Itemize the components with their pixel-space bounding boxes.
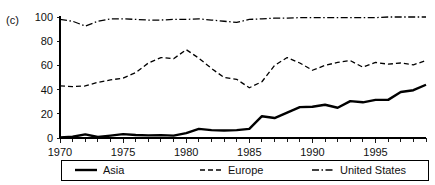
figure-panel-c: (c) 020406080100197019751980198519901995… <box>0 0 435 185</box>
legend-label-united-states: United States <box>340 164 407 176</box>
x-tick-label: 1990 <box>300 146 324 158</box>
y-tick-label: 80 <box>41 35 53 47</box>
x-tick-label: 1980 <box>174 146 198 158</box>
legend-label-asia: Asia <box>103 164 125 176</box>
x-tick-label: 1995 <box>363 146 387 158</box>
x-tick-label: 1985 <box>237 146 261 158</box>
y-tick-label: 20 <box>41 108 53 120</box>
legend-label-europe: Europe <box>228 164 263 176</box>
line-chart: 020406080100197019751980198519901995Asia… <box>0 0 435 185</box>
series-line-europe <box>60 50 426 88</box>
y-tick-label: 40 <box>41 84 53 96</box>
y-tick-label: 60 <box>41 59 53 71</box>
y-tick-label: 100 <box>35 11 53 23</box>
x-tick-label: 1970 <box>48 146 72 158</box>
series-line-united-states <box>60 17 426 26</box>
series-line-asia <box>60 85 426 138</box>
y-tick-label: 0 <box>47 132 53 144</box>
x-tick-label: 1975 <box>111 146 135 158</box>
